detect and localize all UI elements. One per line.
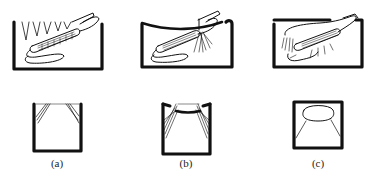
panel-a-top-illustration [14, 13, 102, 69]
panel-b-gum-arc [142, 22, 222, 29]
panel-c-top-illustration [274, 14, 362, 67]
figure-canvas [0, 0, 384, 176]
panel-b-top-illustration [142, 11, 232, 67]
panel-c-bristles [282, 38, 333, 58]
panel-c-gum [288, 52, 318, 61]
panel-c-cross-section [294, 102, 342, 148]
panel-a-label: (a) [51, 157, 63, 169]
panel-a-section-frame [34, 104, 81, 151]
panel-b-label: (b) [180, 157, 193, 169]
panel-a-bristles [22, 22, 71, 40]
panel-c-brush-oval [303, 106, 334, 122]
panel-c-section-frame [294, 102, 342, 148]
panel-c-label: (c) [312, 157, 324, 169]
panel-c-frame [274, 20, 362, 67]
panel-a-cross-section [34, 104, 81, 151]
panel-b-bristles [194, 32, 212, 52]
panel-b-cross-section [163, 104, 210, 154]
